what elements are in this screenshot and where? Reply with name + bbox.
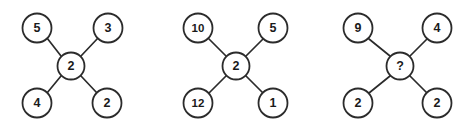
edge-center-to-top-left [47, 38, 61, 56]
node-center-unknown-label: ? [396, 59, 404, 73]
edge-center-to-bottom-right [246, 76, 263, 93]
cluster-1: 5 3 4 2 2 [0, 0, 154, 134]
node-top-left-label: 9 [355, 21, 362, 35]
node-bottom-right-label: 2 [104, 96, 111, 110]
node-top-right-label: 3 [105, 21, 112, 35]
edge-center-to-bottom-left [369, 76, 390, 93]
node-bottom-right-label: 1 [270, 96, 277, 110]
edge-center-to-top-right [410, 39, 427, 56]
edge-center-to-bottom-left [209, 76, 226, 93]
edge-center-to-bottom-left [47, 76, 61, 93]
node-bottom-left-label: 12 [192, 97, 205, 109]
edge-center-to-top-left [369, 39, 390, 56]
edge-center-to-top-right [81, 38, 98, 56]
cluster-2: 10 5 12 1 2 [154, 0, 308, 134]
node-bottom-left-label: 4 [34, 96, 41, 110]
edge-center-to-top-right [246, 39, 263, 56]
puzzle-diagram: 5 3 4 2 2 10 5 12 1 2 [0, 0, 461, 134]
edge-center-to-bottom-right [81, 76, 97, 93]
cluster-3: 9 4 2 2 ? [307, 0, 461, 134]
node-center-label: 2 [68, 59, 75, 73]
node-bottom-right-label: 2 [434, 96, 441, 110]
node-top-left-label: 10 [192, 22, 205, 34]
node-top-right-label: 5 [270, 21, 277, 35]
node-center-label: 2 [233, 59, 240, 73]
edge-center-to-bottom-right [410, 76, 427, 93]
node-bottom-left-label: 2 [355, 96, 362, 110]
edge-center-to-top-left [209, 39, 226, 56]
node-top-right-label: 4 [434, 21, 441, 35]
node-top-left-label: 5 [34, 21, 41, 35]
